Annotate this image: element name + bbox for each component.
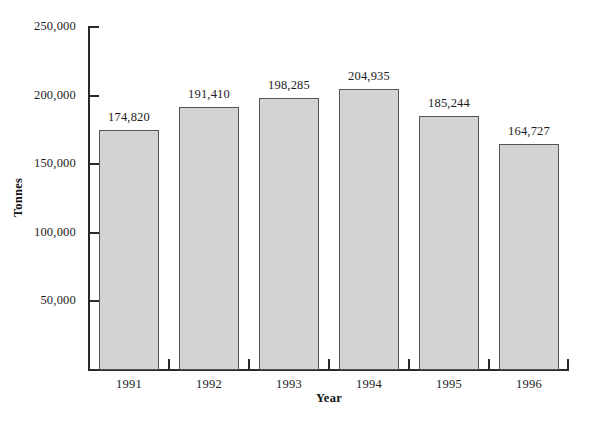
bar bbox=[259, 98, 319, 370]
x-axis-category-label: 1994 bbox=[329, 377, 409, 392]
x-axis-tick bbox=[248, 359, 250, 370]
y-axis-tick-label: 250,000 bbox=[6, 19, 76, 34]
x-axis-category-label: 1996 bbox=[489, 377, 569, 392]
bar bbox=[339, 89, 399, 370]
bar-value-label: 185,244 bbox=[399, 96, 499, 111]
bar bbox=[179, 107, 239, 370]
x-axis-end-tick bbox=[567, 359, 569, 370]
x-axis-category-label: 1991 bbox=[89, 377, 169, 392]
y-axis-tick bbox=[88, 26, 99, 28]
y-axis-tick bbox=[88, 95, 99, 97]
x-axis-tick bbox=[328, 359, 330, 370]
x-axis-category-label: 1993 bbox=[249, 377, 329, 392]
y-axis-tick-label: 200,000 bbox=[6, 88, 76, 103]
bar-value-label: 174,820 bbox=[79, 110, 179, 125]
x-axis-title: Year bbox=[89, 391, 569, 406]
bar bbox=[499, 144, 559, 370]
y-axis-tick-label: 50,000 bbox=[6, 293, 76, 308]
x-axis-category-label: 1995 bbox=[409, 377, 489, 392]
y-axis-title: Tonnes bbox=[11, 168, 26, 228]
bar-chart: 50,000100,000150,000200,000250,000 Tonne… bbox=[0, 0, 589, 423]
x-axis-category-label: 1992 bbox=[169, 377, 249, 392]
bar bbox=[419, 116, 479, 370]
x-axis-tick bbox=[168, 359, 170, 370]
bar bbox=[99, 130, 159, 370]
bar-value-label: 164,727 bbox=[479, 124, 579, 139]
y-axis-tick bbox=[88, 163, 99, 165]
x-axis-tick bbox=[488, 359, 490, 370]
y-axis-line bbox=[88, 27, 90, 371]
x-axis-tick bbox=[408, 359, 410, 370]
y-axis-tick bbox=[88, 232, 99, 234]
bar-value-label: 204,935 bbox=[319, 69, 419, 84]
y-axis-tick bbox=[88, 300, 99, 302]
